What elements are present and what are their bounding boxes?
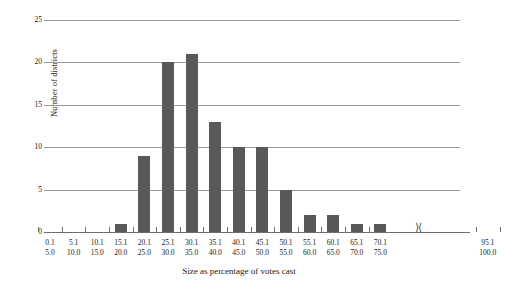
- bar: [162, 62, 174, 232]
- y-tick-label: 15: [26, 101, 42, 109]
- x-tick: [109, 227, 110, 232]
- gridline: [44, 20, 460, 21]
- y-tick-label: 0: [26, 228, 42, 236]
- y-tick-label: 5: [26, 186, 42, 194]
- bar: [209, 122, 221, 232]
- x-tick-label: 95.1100.0: [468, 238, 505, 258]
- bar: [186, 54, 198, 232]
- x-tick: [251, 227, 252, 232]
- x-tick: [38, 227, 39, 232]
- bar: [374, 224, 386, 232]
- gridline: [44, 105, 460, 106]
- gridline: [44, 147, 460, 148]
- y-tick-label: 10: [26, 143, 42, 151]
- x-tick: [274, 227, 275, 232]
- x-tick: [203, 227, 204, 232]
- x-axis-line: [44, 232, 470, 233]
- y-axis-title: Number of districts: [49, 23, 59, 143]
- bar: [115, 224, 127, 232]
- x-tick: [133, 227, 134, 232]
- x-tick: [500, 227, 501, 232]
- x-tick: [476, 227, 477, 232]
- x-tick-label: 70.175.0: [360, 238, 400, 258]
- x-tick: [345, 227, 346, 232]
- x-tick: [62, 227, 63, 232]
- bar: [280, 190, 292, 232]
- bar: [256, 147, 268, 232]
- y-tick-label: 20: [26, 59, 42, 67]
- x-axis-title: Size as percentage of votes cast: [0, 266, 478, 276]
- bar: [138, 156, 150, 232]
- bar: [233, 147, 245, 232]
- x-tick: [85, 227, 86, 232]
- bar: [304, 215, 316, 232]
- x-tick: [321, 227, 322, 232]
- bar: [351, 224, 363, 232]
- x-tick: [180, 227, 181, 232]
- x-tick: [156, 227, 157, 232]
- x-tick: [298, 227, 299, 232]
- axis-break-icon: ⟩⟨: [415, 221, 421, 234]
- gridline: [44, 190, 460, 191]
- bar: [327, 215, 339, 232]
- y-tick-label: 25: [26, 16, 42, 24]
- x-tick: [369, 227, 370, 232]
- x-tick: [227, 227, 228, 232]
- gridline: [44, 62, 460, 63]
